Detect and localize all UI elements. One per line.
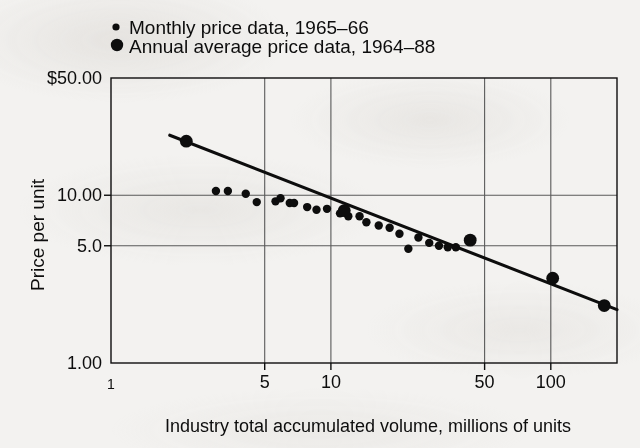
y-tick-label-50: 5.0 bbox=[77, 236, 102, 256]
annual-data-point bbox=[464, 234, 477, 247]
legend-label-annual: Annual average price data, 1964–88 bbox=[129, 36, 435, 57]
y-tick-label-100: 1.00 bbox=[67, 353, 102, 373]
x-axis-title: Industry total accumulated volume, milli… bbox=[165, 416, 571, 436]
monthly-data-point bbox=[404, 245, 412, 253]
monthly-data-point bbox=[242, 190, 250, 198]
monthly-data-point bbox=[212, 187, 220, 195]
monthly-data-point bbox=[444, 243, 452, 251]
annual-data-point bbox=[546, 272, 559, 285]
annual-data-point bbox=[338, 204, 351, 217]
monthly-data-point bbox=[312, 206, 320, 214]
y-axis-tick-labels: 1.005.010.00$50.00 bbox=[47, 68, 111, 373]
monthly-data-point bbox=[276, 194, 284, 202]
x-tick-label-10: 10 bbox=[321, 372, 341, 392]
x-tick-label-1: 1 bbox=[107, 376, 115, 392]
chart-legend: Monthly price data, 1965–66 Annual avera… bbox=[111, 17, 436, 57]
monthly-data-point bbox=[362, 218, 370, 226]
monthly-data-point bbox=[253, 198, 261, 206]
monthly-data-point bbox=[323, 205, 331, 213]
monthly-data-points bbox=[212, 187, 460, 253]
experience-curve-chart: Monthly price data, 1965–66 Annual avera… bbox=[0, 0, 640, 448]
legend-label-monthly: Monthly price data, 1965–66 bbox=[129, 17, 369, 38]
monthly-data-point bbox=[224, 187, 232, 195]
x-axis-tick-labels: 151050100 bbox=[107, 363, 566, 392]
monthly-data-point bbox=[414, 233, 422, 241]
annual-data-point bbox=[180, 135, 193, 148]
x-tick-label-100: 100 bbox=[536, 372, 566, 392]
y-tick-label-5000: $50.00 bbox=[47, 68, 102, 88]
monthly-data-point bbox=[303, 203, 311, 211]
legend-marker-annual-dot bbox=[111, 39, 123, 51]
legend-marker-monthly-dot bbox=[112, 23, 119, 30]
monthly-data-point bbox=[452, 243, 460, 251]
monthly-data-point bbox=[395, 229, 403, 237]
monthly-data-point bbox=[290, 199, 298, 207]
y-axis-title: Price per unit bbox=[27, 178, 48, 291]
monthly-data-point bbox=[385, 224, 393, 232]
monthly-data-point bbox=[435, 242, 443, 250]
monthly-data-point bbox=[425, 239, 433, 247]
x-tick-label-50: 50 bbox=[475, 372, 495, 392]
monthly-data-point bbox=[375, 221, 383, 229]
monthly-data-point bbox=[355, 212, 363, 220]
chart-figure: Monthly price data, 1965–66 Annual avera… bbox=[0, 0, 640, 448]
x-tick-label-5: 5 bbox=[260, 372, 270, 392]
y-tick-label-1000: 10.00 bbox=[57, 185, 102, 205]
annual-data-point bbox=[598, 299, 611, 312]
